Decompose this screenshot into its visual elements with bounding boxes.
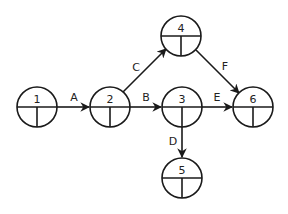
- edge-label-a: A: [70, 91, 78, 104]
- node-4: 4: [161, 16, 201, 56]
- network-diagram: A B C D E F 1 2 3 4: [0, 0, 288, 214]
- edge-C: C: [123, 49, 166, 92]
- edge-A: A: [57, 91, 89, 107]
- edge-label-c: C: [132, 61, 140, 74]
- node-number: 5: [179, 164, 186, 177]
- node-2: 2: [90, 87, 130, 127]
- edge-label-e: E: [214, 91, 221, 104]
- edge-B: B: [130, 91, 161, 107]
- edge-F: F: [196, 50, 239, 93]
- edge-D: D: [169, 127, 182, 157]
- node-6: 6: [233, 87, 273, 127]
- edge-label-d: D: [169, 135, 177, 148]
- node-number: 1: [34, 93, 41, 106]
- node-number: 2: [107, 93, 114, 106]
- edge-E: E: [202, 91, 232, 107]
- edge-label-b: B: [142, 91, 150, 104]
- node-5: 5: [162, 158, 202, 198]
- node-number: 3: [179, 93, 186, 106]
- node-3: 3: [162, 87, 202, 127]
- node-number: 6: [250, 93, 257, 106]
- node-number: 4: [178, 22, 185, 35]
- edge-label-f: F: [222, 60, 228, 73]
- node-1: 1: [17, 87, 57, 127]
